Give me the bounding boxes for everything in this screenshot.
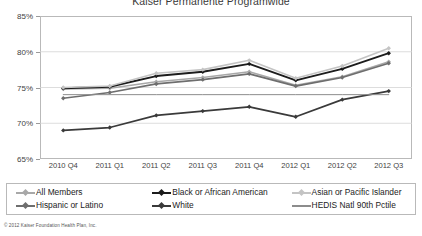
chart-lines-svg	[40, 16, 412, 159]
legend-item-black-or-african-american[interactable]: Black or African American	[150, 186, 289, 199]
series-marker	[108, 125, 112, 129]
legend-label: HEDIS Natl 90th Pctile	[312, 200, 396, 211]
series-marker	[247, 58, 251, 62]
series-line	[63, 53, 389, 88]
series-marker	[61, 128, 65, 132]
legend-label: White	[172, 200, 193, 211]
series-marker	[340, 97, 344, 101]
legend-item-hispanic-or-latino[interactable]: Hispanic or Latino	[9, 199, 150, 212]
series-marker	[387, 89, 391, 93]
series-marker	[247, 105, 251, 109]
x-axis: 2010 Q42011 Q12011 Q22011 Q32011 Q42012 …	[40, 160, 412, 174]
y-tick-label: 70%	[17, 119, 33, 128]
legend-item-white[interactable]: White	[150, 199, 289, 212]
x-tick-label: 2011 Q1	[95, 161, 124, 170]
x-tick-label: 2012 Q3	[374, 161, 403, 170]
chart-page: Kaiser Permanente Programwide 85%80%75%7…	[0, 0, 422, 236]
copyright-footer: © 2012 Kaiser Foundation Health Plan, In…	[4, 223, 97, 228]
legend-item-hedis-natl-90th-pctile[interactable]: HEDIS Natl 90th Pctile	[290, 199, 413, 212]
legend-label: Hispanic or Latino	[36, 200, 103, 211]
x-tick-label: 2011 Q2	[142, 161, 171, 170]
legend-marker-icon	[16, 200, 35, 211]
legend-marker-icon	[152, 200, 171, 211]
x-tick-label: 2011 Q4	[235, 161, 264, 170]
legend-marker-icon	[152, 187, 171, 198]
x-tick-label: 2010 Q4	[49, 161, 78, 170]
legend-label: Asian or Pacific Islander	[312, 187, 402, 198]
chart-title: Kaiser Permanente Programwide	[0, 0, 422, 8]
y-axis: 85%80%75%70%65%	[0, 16, 36, 159]
legend-marker-icon	[292, 200, 311, 211]
series-line	[63, 91, 389, 130]
legend-label: All Members	[36, 187, 83, 198]
plot-area	[40, 16, 412, 159]
series-marker	[108, 90, 112, 94]
x-tick-label: 2012 Q1	[281, 161, 310, 170]
series-marker	[294, 115, 298, 119]
x-tick-label: 2012 Q2	[328, 161, 357, 170]
legend-item-asian-or-pacific-islander[interactable]: Asian or Pacific Islander	[290, 186, 413, 199]
legend-label: Black or African American	[172, 187, 267, 198]
chart-legend: All MembersBlack or African AmericanAsia…	[6, 183, 416, 215]
legend-row: Hispanic or LatinoWhiteHEDIS Natl 90th P…	[9, 199, 413, 212]
legend-row: All MembersBlack or African AmericanAsia…	[9, 186, 413, 199]
legend-marker-icon	[292, 187, 311, 198]
legend-marker-icon	[16, 187, 35, 198]
legend-item-all-members[interactable]: All Members	[9, 186, 150, 199]
series-marker	[154, 71, 158, 75]
x-tick-label: 2011 Q3	[188, 161, 217, 170]
series-marker	[61, 96, 65, 100]
y-tick-label: 80%	[17, 47, 33, 56]
series-marker	[201, 109, 205, 113]
series-marker	[387, 46, 391, 50]
series-marker	[154, 113, 158, 117]
y-tick-label: 85%	[17, 12, 33, 21]
y-tick-label: 75%	[17, 83, 33, 92]
y-tick-label: 65%	[17, 155, 33, 164]
